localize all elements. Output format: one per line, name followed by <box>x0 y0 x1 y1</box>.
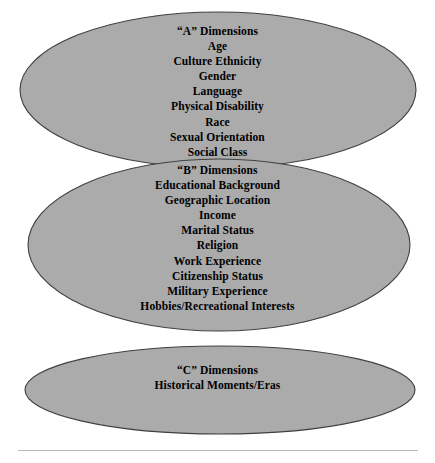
ellipse-c-heading: “C” Dimensions <box>0 363 435 378</box>
bottom-divider <box>18 450 418 451</box>
ellipse-a-item: Culture Ethnicity <box>0 54 435 69</box>
ellipse-b-heading: “B” Dimensions <box>0 163 435 178</box>
ellipse-c-item: Historical Moments/Eras <box>0 378 435 393</box>
ellipse-b-text: “B” Dimensions Educational Background Ge… <box>0 163 435 314</box>
ellipse-a-item: Race <box>0 115 435 130</box>
ellipse-b-item: Geographic Location <box>0 193 435 208</box>
ellipse-b-item: Religion <box>0 238 435 253</box>
ellipse-b-item: Citizenship Status <box>0 269 435 284</box>
ellipse-b-item: Work Experience <box>0 254 435 269</box>
ellipse-a-item: Age <box>0 39 435 54</box>
ellipse-b-item: Military Experience <box>0 284 435 299</box>
ellipse-b-item: Marital Status <box>0 223 435 238</box>
ellipse-b-item: Educational Background <box>0 178 435 193</box>
ellipse-a-item: Language <box>0 84 435 99</box>
ellipse-b-item: Income <box>0 208 435 223</box>
ellipse-a-item: Gender <box>0 69 435 84</box>
ellipse-a-heading: “A” Dimensions <box>0 24 435 39</box>
ellipse-a-item: Social Class <box>0 145 435 160</box>
ellipse-a-text: “A” Dimensions Age Culture Ethnicity Gen… <box>0 24 435 160</box>
ellipse-a-item: Physical Disability <box>0 99 435 114</box>
ellipse-a-item: Sexual Orientation <box>0 130 435 145</box>
diversity-dimensions-figure: “A” Dimensions Age Culture Ethnicity Gen… <box>0 0 435 463</box>
ellipse-b-item: Hobbies/Recreational Interests <box>0 299 435 314</box>
ellipse-c-text: “C” Dimensions Historical Moments/Eras <box>0 363 435 393</box>
